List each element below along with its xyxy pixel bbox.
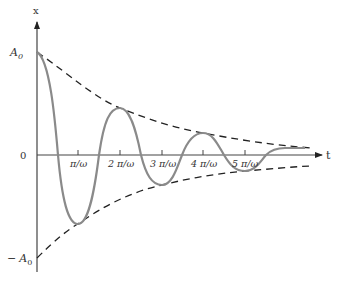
upper-envelope — [37, 52, 312, 148]
y-axis-label: x — [33, 5, 39, 16]
a0-label: A0 — [9, 46, 23, 61]
tick-label-1: π/ω — [69, 158, 87, 169]
damped-oscillation-chart: x t 0 A0 −A0 π/ω 2 π/ω 3 π/ω 4 π/ω 5 π/ω — [0, 0, 347, 281]
lower-envelope — [37, 166, 310, 258]
origin-label: 0 — [20, 150, 26, 161]
tick-label-5: 5 π/ω — [232, 158, 259, 169]
x-ticks — [78, 150, 245, 155]
x-axis-label: t — [326, 149, 331, 162]
tick-label-2: 2 π/ω — [107, 158, 135, 169]
tick-label-3: 3 π/ω — [150, 158, 177, 169]
tick-label-4: 4 π/ω — [190, 158, 218, 169]
oscillation-curve — [37, 52, 305, 224]
neg-a0-label: −A0 — [7, 252, 32, 267]
